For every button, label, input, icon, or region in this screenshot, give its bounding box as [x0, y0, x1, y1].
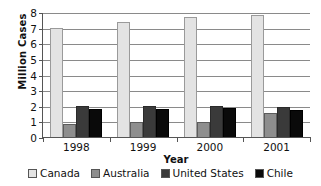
x-axis-tick-label: 1999 [130, 141, 157, 153]
bar-chile-1998 [89, 109, 102, 137]
bar-group: 2001 [243, 13, 310, 137]
y-axis-tick-label: 5 [30, 54, 37, 66]
legend-swatch-icon [28, 169, 37, 178]
y-axis-tick-label: 0 [30, 132, 37, 144]
legend-swatch-icon [255, 169, 264, 178]
legend: CanadaAustraliaUnited StatesChile [0, 167, 321, 179]
y-axis-tick-label: 4 [30, 70, 37, 82]
bar-group: 1998 [43, 13, 110, 137]
y-axis-tick-label: 2 [30, 101, 37, 113]
y-axis-tick-label: 3 [30, 85, 37, 97]
bar-australia-1998 [63, 124, 76, 137]
bar-united-states-1999 [143, 106, 156, 137]
x-axis-tick-label: 2000 [197, 141, 224, 153]
bar-australia-2001 [264, 113, 277, 137]
legend-swatch-icon [91, 169, 100, 178]
legend-item-australia[interactable]: Australia [91, 167, 149, 179]
bar-canada-1998 [50, 28, 63, 137]
bar-australia-2000 [197, 122, 210, 137]
bar-chile-2000 [223, 108, 236, 137]
x-axis-tick-label: 2001 [263, 141, 290, 153]
legend-label: Australia [103, 167, 149, 179]
bar-groups: 1998199920002001 [43, 13, 310, 137]
y-axis-tick-label: 7 [30, 23, 37, 35]
legend-label: Chile [267, 167, 293, 179]
legend-item-chile[interactable]: Chile [255, 167, 293, 179]
y-axis-tick-label: 8 [30, 7, 37, 19]
x-axis-tick-mark [110, 137, 111, 142]
x-axis-tick-mark [310, 137, 311, 142]
bar-chart: Million Cases 012345678 1998199920002001… [0, 0, 321, 186]
bar-group: 2000 [177, 13, 244, 137]
bar-canada-1999 [117, 22, 130, 137]
legend-label: United States [173, 167, 244, 179]
bar-united-states-1998 [76, 106, 89, 137]
bar-chile-2001 [290, 110, 303, 137]
x-axis-tick-mark [243, 137, 244, 142]
bar-chile-1999 [156, 109, 169, 137]
bar-canada-2000 [184, 17, 197, 137]
legend-swatch-icon [161, 169, 170, 178]
y-axis-tick-label: 6 [30, 38, 37, 50]
bar-united-states-2001 [277, 107, 290, 137]
bar-australia-1999 [130, 122, 143, 137]
y-axis-tick-label: 1 [30, 116, 37, 128]
legend-label: Canada [40, 167, 80, 179]
legend-item-canada[interactable]: Canada [28, 167, 80, 179]
x-axis-tick-mark [177, 137, 178, 142]
x-axis-title: Year [42, 154, 310, 165]
bar-canada-2001 [251, 15, 264, 137]
x-axis-tick-mark [43, 137, 44, 142]
y-axis-title: Million Cases [17, 8, 28, 96]
bar-group: 1999 [110, 13, 177, 137]
legend-item-united-states[interactable]: United States [161, 167, 244, 179]
x-axis-tick-label: 1998 [63, 141, 90, 153]
plot-area: 012345678 1998199920002001 [42, 13, 310, 138]
bar-united-states-2000 [210, 106, 223, 137]
